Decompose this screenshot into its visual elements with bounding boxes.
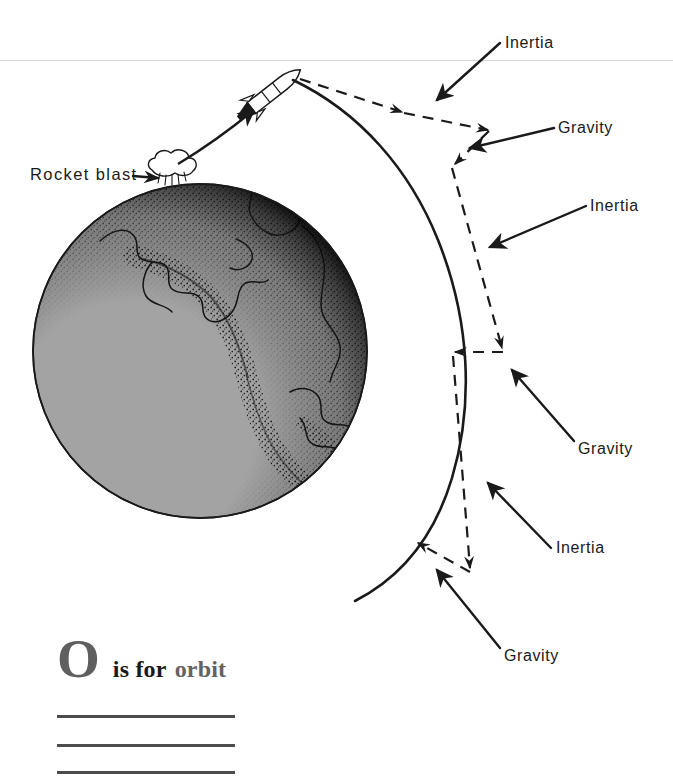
gravity-vector-3 bbox=[418, 543, 470, 572]
illustration-page: Rocket blast Inertia Gravity Inertia Gra… bbox=[0, 0, 673, 781]
label-inertia-3: Inertia bbox=[556, 540, 605, 556]
inertia-vector-1 bbox=[300, 79, 402, 112]
label-gravity-1: Gravity bbox=[558, 120, 613, 136]
caption: O is for orbit bbox=[57, 634, 226, 685]
rocket bbox=[231, 60, 308, 129]
rocket-blast-puff bbox=[148, 150, 196, 185]
leader-gravity-2 bbox=[512, 370, 574, 441]
leader-inertia-3 bbox=[488, 483, 551, 548]
caption-letter: O bbox=[57, 634, 100, 685]
label-gravity-2: Gravity bbox=[578, 441, 633, 457]
writing-rule-3 bbox=[57, 771, 235, 774]
caption-is-for: is for bbox=[113, 656, 167, 683]
writing-rule-1 bbox=[57, 715, 235, 718]
leader-inertia-1 bbox=[437, 43, 500, 100]
earth-globe bbox=[33, 184, 367, 518]
leader-inertia-2 bbox=[490, 206, 586, 247]
label-gravity-3: Gravity bbox=[504, 648, 559, 664]
terminator-shading bbox=[33, 184, 367, 518]
gravity-vector-1 bbox=[404, 113, 488, 130]
label-inertia-2: Inertia bbox=[590, 198, 639, 214]
label-rocket-blast: Rocket blast bbox=[30, 166, 138, 183]
caption-word: orbit bbox=[175, 656, 227, 683]
label-inertia-1: Inertia bbox=[505, 35, 554, 51]
writing-rule-2 bbox=[57, 744, 235, 747]
leader-gravity-3 bbox=[437, 570, 500, 648]
